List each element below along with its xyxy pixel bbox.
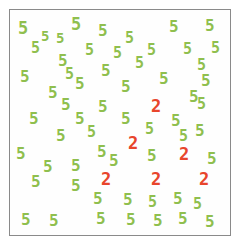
distractor-digit: 5 xyxy=(197,58,206,73)
distractor-digit: 5 xyxy=(20,69,30,85)
distractor-digit: 5 xyxy=(97,144,107,160)
distractor-digit: 5 xyxy=(123,192,133,208)
distractor-digit: 5 xyxy=(21,212,31,228)
target-digit[interactable]: 2 xyxy=(101,171,111,188)
target-digit[interactable]: 2 xyxy=(151,171,161,188)
distractor-digit: 5 xyxy=(211,41,220,56)
distractor-digit: 5 xyxy=(31,174,41,190)
distractor-digit: 5 xyxy=(193,197,202,212)
search-display-frame: 5555555555555555555555525552555255555222… xyxy=(9,9,231,236)
distractor-digit: 5 xyxy=(125,31,134,46)
distractor-digit: 5 xyxy=(201,73,211,89)
distractor-digit: 5 xyxy=(71,158,81,174)
distractor-digit: 5 xyxy=(113,46,122,61)
target-digit[interactable]: 2 xyxy=(199,171,209,188)
distractor-digit: 5 xyxy=(173,191,183,207)
distractor-digit: 5 xyxy=(153,213,163,229)
distractor-digit: 5 xyxy=(205,214,215,230)
distractor-digit: 5 xyxy=(197,97,206,112)
target-digit[interactable]: 2 xyxy=(151,98,161,115)
distractor-digit: 5 xyxy=(148,195,157,210)
distractor-digit: 5 xyxy=(43,159,53,175)
distractor-digit: 5 xyxy=(18,20,28,37)
distractor-digit: 5 xyxy=(169,19,179,35)
distractor-digit: 5 xyxy=(75,111,85,127)
distractor-digit: 5 xyxy=(195,123,205,139)
distractor-digit: 5 xyxy=(126,212,136,228)
distractor-digit: 5 xyxy=(207,151,217,167)
distractor-digit: 5 xyxy=(75,76,85,92)
distractor-digit: 5 xyxy=(29,111,39,127)
distractor-digit: 5 xyxy=(109,153,119,169)
target-digit[interactable]: 2 xyxy=(128,135,138,152)
distractor-digit: 5 xyxy=(178,211,188,227)
distractor-digit: 5 xyxy=(61,97,71,113)
distractor-digit: 5 xyxy=(96,211,106,227)
distractor-digit: 5 xyxy=(65,67,74,82)
distractor-digit: 5 xyxy=(135,56,144,71)
distractor-digit: 5 xyxy=(31,41,40,56)
target-digit[interactable]: 2 xyxy=(179,146,189,163)
distractor-digit: 5 xyxy=(71,16,81,33)
distractor-digit: 5 xyxy=(48,85,58,101)
distractor-digit: 5 xyxy=(159,71,169,87)
distractor-digit: 5 xyxy=(93,191,103,207)
distractor-digit: 5 xyxy=(98,99,108,115)
distractor-digit: 5 xyxy=(101,63,111,79)
distractor-digit: 5 xyxy=(71,178,81,194)
distractor-digit: 5 xyxy=(41,29,49,43)
distractor-digit: 5 xyxy=(121,79,131,95)
distractor-digit: 5 xyxy=(205,18,215,34)
distractor-digit: 5 xyxy=(98,23,108,39)
distractor-digit: 5 xyxy=(121,111,131,127)
distractor-digit: 5 xyxy=(179,129,188,144)
distractor-digit: 5 xyxy=(183,42,192,57)
distractor-digit: 5 xyxy=(85,43,94,58)
distractor-digit: 5 xyxy=(87,125,96,140)
distractor-digit: 5 xyxy=(145,122,154,137)
distractor-digit: 5 xyxy=(56,31,64,45)
distractor-digit: 5 xyxy=(147,43,156,58)
distractor-digit: 5 xyxy=(56,128,66,144)
distractor-digit: 5 xyxy=(49,213,59,229)
distractor-digit: 5 xyxy=(147,148,157,164)
distractor-digit: 5 xyxy=(16,146,26,162)
